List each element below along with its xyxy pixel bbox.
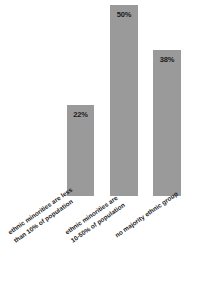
bar-value-label-2: 50% <box>110 11 138 19</box>
bar-group-2: 50% <box>110 5 138 196</box>
bar-value-label-1: 22% <box>67 111 94 119</box>
bar-ethnic-minorities-10-to-50[interactable] <box>110 5 138 196</box>
bar-no-majority-ethnic-group[interactable] <box>153 50 181 196</box>
category-label-3: no majority ethnic group <box>113 189 180 240</box>
bar-ethnic-minorities-less-than-10[interactable] <box>67 105 94 196</box>
bar-value-label-3: 38% <box>153 56 181 64</box>
plot-area: 22% 50% 38% <box>0 0 198 196</box>
bar-chart: 22% 50% 38% ethnic minorities are less t… <box>0 0 198 289</box>
category-label-3-line-1: no majority ethnic group <box>113 189 180 240</box>
category-axis-labels: ethnic minorities are less than 10% of p… <box>0 196 198 289</box>
bar-group-3: 38% <box>153 50 181 196</box>
bar-group-1: 22% <box>67 105 94 196</box>
